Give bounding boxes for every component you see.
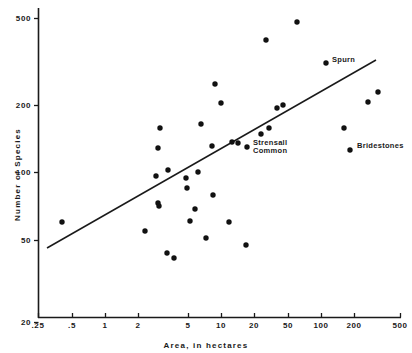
data-point	[375, 89, 380, 94]
data-point	[347, 147, 352, 152]
x-axis-title: Area, in hectares	[0, 341, 412, 350]
x-tick-label: 5	[185, 321, 190, 330]
x-tick-label: 1	[102, 321, 107, 330]
data-point	[198, 121, 203, 126]
point-label-common: Common	[253, 147, 287, 156]
y-tick-label: 50	[2, 236, 31, 245]
x-tick-label: 50	[283, 321, 293, 330]
point-label-spurn: Spurn	[332, 56, 355, 65]
x-tick-label: 10	[216, 321, 226, 330]
x-tick-label: .5	[68, 321, 76, 330]
data-point	[235, 140, 240, 145]
data-point	[365, 99, 370, 104]
data-point	[258, 131, 263, 136]
data-point	[164, 250, 169, 255]
data-point	[294, 19, 299, 24]
data-point	[266, 125, 271, 130]
x-tick-label: 20	[249, 321, 259, 330]
data-point	[203, 235, 208, 240]
regression-line	[47, 60, 376, 248]
data-point	[195, 169, 200, 174]
data-point	[263, 37, 268, 42]
y-tick-label: 20	[2, 318, 31, 327]
data-point	[274, 105, 279, 110]
data-point	[323, 60, 328, 65]
data-point	[157, 125, 162, 130]
data-point	[192, 206, 197, 211]
scatter-chart: .25.5125102050100200500 5002001005020 Sp…	[0, 0, 412, 353]
x-tick-label: 2	[135, 321, 140, 330]
data-point	[209, 143, 214, 148]
chart-canvas	[0, 0, 412, 353]
x-tick-label: 500	[392, 321, 407, 330]
data-point	[210, 192, 215, 197]
data-point	[244, 144, 249, 149]
y-tick-label: 200	[2, 101, 31, 110]
data-point	[226, 219, 231, 224]
data-point	[212, 81, 217, 86]
data-point	[184, 185, 189, 190]
data-point	[142, 228, 147, 233]
data-point	[165, 167, 170, 172]
data-point	[156, 203, 161, 208]
x-tick-label: .25	[32, 321, 45, 330]
data-point	[187, 218, 192, 223]
y-tick-label: 500	[2, 14, 31, 23]
data-point	[153, 173, 158, 178]
fit-line-segment	[47, 60, 376, 248]
x-tick-label: 200	[346, 321, 361, 330]
data-point	[280, 102, 285, 107]
data-point	[183, 175, 188, 180]
data-point	[155, 145, 160, 150]
data-point	[218, 100, 223, 105]
data-point	[229, 139, 234, 144]
x-tick-label: 100	[313, 321, 328, 330]
point-label-bridestones: Bridestones	[357, 142, 404, 151]
y-axis-title: Number of Species	[13, 120, 22, 230]
data-point	[59, 219, 64, 224]
data-point	[243, 242, 248, 247]
data-point	[171, 255, 176, 260]
data-point	[341, 125, 346, 130]
